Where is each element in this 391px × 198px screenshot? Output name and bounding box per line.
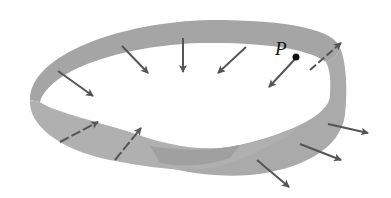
- arrow-icon: [58, 71, 93, 96]
- point-p-label: P: [274, 38, 287, 59]
- mobius-strip-diagram: P: [0, 0, 391, 198]
- arrow-icon: [269, 58, 296, 87]
- arrow-icon: [218, 47, 246, 73]
- point-p-marker: [293, 54, 300, 61]
